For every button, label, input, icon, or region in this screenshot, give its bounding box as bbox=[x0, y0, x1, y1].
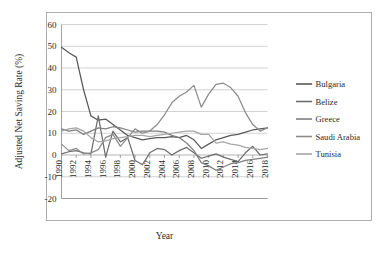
legend-label-bulgaria: Bulgaria bbox=[316, 79, 346, 89]
x-axis-title: Year bbox=[156, 231, 174, 241]
y-tick-label: -20 bbox=[45, 194, 57, 204]
y-tick-label: 30 bbox=[48, 85, 58, 95]
x-tick-label: 2008 bbox=[186, 160, 196, 179]
line-chart-svg: 6050403020100-10-20199019921994199619982… bbox=[0, 0, 388, 257]
y-tick-label: 40 bbox=[48, 63, 58, 73]
chart-figure: 6050403020100-10-20199019921994199619982… bbox=[0, 0, 388, 257]
x-tick-label: 2016 bbox=[245, 159, 255, 178]
legend-label-tunisia: Tunisia bbox=[316, 149, 342, 159]
legend-label-saudi-arabia: Saudi Arabia bbox=[316, 132, 361, 142]
y-tick-label: 60 bbox=[48, 20, 58, 30]
legend-label-belize: Belize bbox=[316, 97, 338, 107]
y-tick-label: 0 bbox=[52, 150, 57, 160]
legend-label-greece: Greece bbox=[316, 114, 341, 124]
x-tick-label: 1992 bbox=[68, 160, 78, 178]
x-tick-label: 2004 bbox=[157, 160, 167, 179]
y-axis-title: Adjusted Net Saving Rate (%) bbox=[14, 54, 25, 170]
y-tick-label: 50 bbox=[48, 41, 58, 51]
y-tick-label: 20 bbox=[48, 107, 58, 117]
y-tick-label: 10 bbox=[48, 128, 58, 138]
x-tick-label: 1998 bbox=[112, 160, 122, 179]
x-tick-label: 2006 bbox=[171, 160, 181, 179]
x-tick-label: 2018 bbox=[260, 160, 270, 179]
x-tick-label: 2010 bbox=[201, 160, 211, 179]
x-tick-label: 1996 bbox=[98, 160, 108, 179]
x-tick-label: 2012 bbox=[215, 160, 225, 178]
x-tick-label: 1994 bbox=[83, 160, 93, 179]
x-tick-label: 2000 bbox=[127, 160, 137, 179]
x-tick-label: 1990 bbox=[54, 160, 64, 179]
